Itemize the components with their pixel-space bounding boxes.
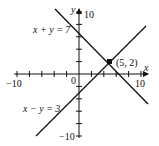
label-line2: x − y = 3 <box>22 103 60 114</box>
label-line1: x + y = 7 <box>32 24 71 35</box>
tick-label-ymin: −10 <box>59 131 75 142</box>
x-axis <box>14 71 148 77</box>
tick-label-xmax: 10 <box>135 78 145 89</box>
line-x-minus-y-eq-3 <box>36 26 146 136</box>
label-x-axis: x <box>143 62 149 73</box>
label-y-axis: y <box>70 4 76 15</box>
tick-label-xmin: −10 <box>6 78 22 89</box>
tick-label-ymax: 10 <box>84 9 94 20</box>
chart-canvas: x + y = 7 x − y = 3 (5, 2) x y −10 10 10… <box>0 0 159 146</box>
intersection-marker <box>107 59 112 64</box>
label-point: (5, 2) <box>116 57 138 69</box>
origin-label: 0 <box>71 75 76 86</box>
